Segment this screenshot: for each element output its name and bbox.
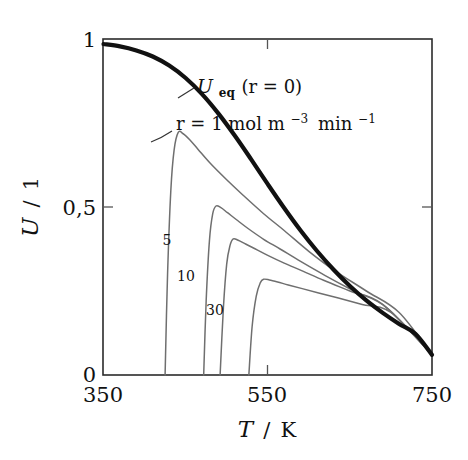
y-axis-title-unit: 1 xyxy=(19,177,43,190)
y-axis-title-group: U / 1 xyxy=(17,177,43,237)
annotation-equilibrium-symbol: U xyxy=(197,75,214,97)
figure-container: 1 0,5 0 350 550 750 U / 1 T / K U eq (r … xyxy=(0,0,468,460)
x-tick-label-550: 550 xyxy=(247,383,287,407)
y-axis-title: U / 1 xyxy=(17,177,43,237)
annotation-rate-prefix: r = 1 mol m xyxy=(176,113,285,134)
y-tick-label-1: 1 xyxy=(83,28,96,52)
y-axis-title-symbol: U xyxy=(17,216,43,237)
curve-label-10: 10 xyxy=(177,268,195,284)
x-axis-title-divider: / xyxy=(263,418,271,442)
annotation-rate: r = 1 mol m −3 min −1 xyxy=(176,106,376,134)
annotation-equilibrium-subscript: eq xyxy=(219,86,236,100)
x-tick-label-750: 750 xyxy=(412,383,452,407)
curve-label-30: 30 xyxy=(206,302,224,318)
annotation-rate-exponent-2: −1 xyxy=(358,112,376,126)
annotation-equilibrium: U eq (r = 0) xyxy=(197,75,302,101)
y-tick-label-0-5: 0,5 xyxy=(63,196,96,220)
x-axis-title: T / K xyxy=(238,416,297,442)
annotation-equilibrium-paren: (r = 0) xyxy=(242,76,303,97)
curve-label-5: 5 xyxy=(163,232,172,248)
leader-line-equilibrium xyxy=(178,88,194,98)
annotation-rate-exponent-1: −3 xyxy=(291,112,309,126)
x-axis-title-unit: K xyxy=(280,418,296,442)
leader-line-rate xyxy=(151,131,172,142)
chart-svg: 1 0,5 0 350 550 750 U / 1 T / K U eq (r … xyxy=(0,0,468,460)
y-axis-title-divider: / xyxy=(19,200,43,208)
curve-r-5 xyxy=(204,206,432,375)
x-axis-title-symbol: T xyxy=(238,416,255,442)
annotation-rate-mid: min xyxy=(318,113,353,134)
x-tick-label-350: 350 xyxy=(83,383,123,407)
